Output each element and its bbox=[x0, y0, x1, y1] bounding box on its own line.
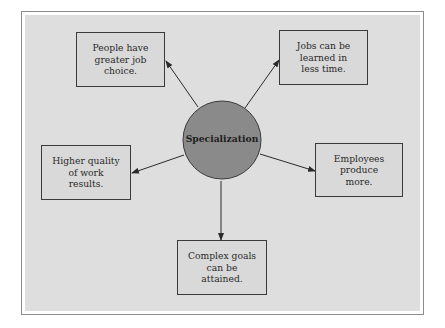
node-text: Employees produce more. bbox=[334, 153, 385, 188]
node-text: Complex goals can be attained. bbox=[188, 250, 256, 285]
node-job-choice: People have greater job choice. bbox=[76, 32, 165, 87]
arrow-to-job-choice bbox=[166, 61, 198, 107]
node-learned-less-time: Jobs can be learned in less time. bbox=[279, 30, 368, 85]
node-text: Jobs can be learned in less time. bbox=[297, 40, 351, 75]
arrow-to-higher-quality bbox=[132, 155, 184, 173]
node-complex-goals: Complex goals can be attained. bbox=[177, 240, 267, 295]
node-text: Higher quality of work results. bbox=[52, 155, 120, 190]
arrow-to-learned-less-time bbox=[245, 60, 279, 108]
node-text: People have greater job choice. bbox=[93, 42, 149, 77]
center-node-label: Specialization bbox=[183, 133, 261, 144]
arrow-to-produce-more bbox=[260, 154, 315, 171]
node-higher-quality: Higher quality of work results. bbox=[41, 145, 131, 200]
node-produce-more: Employees produce more. bbox=[315, 143, 403, 197]
